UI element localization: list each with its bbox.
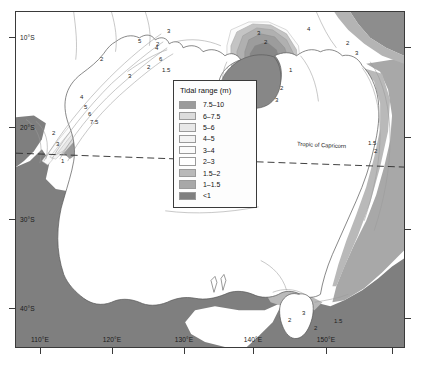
legend-row: 1–1.5 bbox=[179, 179, 251, 190]
legend-label: 1.5–2 bbox=[203, 170, 220, 177]
lon-tick-110e bbox=[40, 347, 41, 354]
contour-label: 3 bbox=[56, 141, 59, 147]
contour-label: 3 bbox=[355, 50, 358, 56]
lon-label-150e: 150°E bbox=[317, 336, 336, 343]
legend-label: 6–7.5 bbox=[203, 113, 220, 120]
lat-tick-right-10s bbox=[404, 47, 411, 48]
contour-label: 7.5 bbox=[90, 119, 98, 125]
legend-row: 6–7.5 bbox=[179, 110, 251, 121]
contour-label: 1.5 bbox=[334, 318, 342, 324]
legend-row: 5–6 bbox=[179, 122, 251, 133]
lon-label-120e: 120°E bbox=[103, 336, 122, 343]
legend-swatch bbox=[179, 192, 196, 200]
legend-label: 2–3 bbox=[203, 158, 215, 165]
legend-row: <1 bbox=[179, 190, 251, 201]
contour-label: 6 bbox=[159, 56, 162, 62]
legend-swatch bbox=[179, 157, 196, 165]
lat-tick-right-30s bbox=[404, 229, 411, 230]
legend-label: 3–4 bbox=[203, 147, 215, 154]
contour-label: 3 bbox=[302, 310, 305, 316]
legend-row: 2–3 bbox=[179, 156, 251, 167]
lat-tick-left-40s bbox=[9, 308, 16, 309]
contour-label: 1.5 bbox=[162, 67, 170, 73]
contour-label: 3 bbox=[167, 28, 170, 34]
legend-label: 4–5 bbox=[203, 135, 215, 142]
legend-swatch bbox=[179, 123, 196, 131]
contour-label: 3 bbox=[275, 97, 278, 103]
lon-tick-150e bbox=[326, 347, 327, 354]
contour-label: 3 bbox=[128, 73, 131, 79]
lat-label-20s: 20°S bbox=[20, 124, 35, 131]
contour-label: 6 bbox=[88, 111, 91, 117]
contour-label: 2 bbox=[52, 130, 55, 136]
lon-tick-edge bbox=[392, 347, 393, 354]
lat-tick-left-20s bbox=[9, 127, 16, 128]
legend-row: 1.5–2 bbox=[179, 167, 251, 178]
legend-swatch bbox=[179, 112, 196, 120]
contour-label: 4 bbox=[307, 26, 310, 32]
legend-swatch bbox=[179, 146, 196, 154]
legend-rows: 7.5–106–7.55–64–53–42–31.5–21–1.5<1 bbox=[179, 99, 251, 202]
legend-swatch bbox=[179, 135, 196, 143]
legend-row: 3–4 bbox=[179, 145, 251, 156]
contour-label: 2 bbox=[280, 85, 283, 91]
contour-label: 2 bbox=[346, 40, 349, 46]
contour-label: 2 bbox=[100, 56, 103, 62]
lon-label-130e: 130°E bbox=[175, 336, 194, 343]
legend-swatch bbox=[179, 169, 196, 177]
lat-label-30s: 30°S bbox=[20, 216, 35, 223]
contour-label: 5 bbox=[138, 38, 141, 44]
contour-label: 2 bbox=[264, 39, 267, 45]
contour-label: 2 bbox=[314, 325, 317, 331]
legend-label: 7.5–10 bbox=[203, 101, 224, 108]
contour-label: 4 bbox=[155, 45, 158, 51]
legend-label: <1 bbox=[203, 192, 211, 199]
map-frame: Tropic of Capricorn 2234564567.5321.5321… bbox=[15, 11, 405, 348]
lat-tick-left-10s bbox=[9, 37, 16, 38]
legend-label: 1–1.5 bbox=[203, 181, 220, 188]
contour-label: 5 bbox=[84, 104, 87, 110]
lon-label-140e: 140°E bbox=[244, 336, 263, 343]
contour-label: 1 bbox=[61, 158, 64, 164]
contour-label: 4 bbox=[80, 94, 83, 100]
lat-label-10s: 10°S bbox=[20, 34, 35, 41]
tidal-range-map-figure: Tropic of Capricorn 2234564567.5321.5321… bbox=[0, 0, 422, 366]
lat-label-40s: 40°S bbox=[20, 305, 35, 312]
legend-swatch bbox=[179, 101, 196, 109]
lat-tick-right-40s bbox=[404, 318, 411, 319]
lat-tick-left-30s bbox=[9, 219, 16, 220]
contour-label: 3 bbox=[257, 30, 260, 36]
contour-label: 1 bbox=[289, 67, 292, 73]
lon-label-110e: 110°E bbox=[31, 336, 49, 343]
legend-swatch bbox=[179, 180, 196, 188]
legend-label: 5–6 bbox=[203, 124, 215, 131]
legend-row: 4–5 bbox=[179, 133, 251, 144]
lat-tick-right-20s bbox=[404, 137, 411, 138]
contour-label: 2 bbox=[288, 317, 291, 323]
lon-tick-120e bbox=[112, 347, 113, 354]
contour-label: 1.5 bbox=[368, 140, 376, 146]
contour-label: 2 bbox=[374, 148, 377, 154]
lon-tick-140e bbox=[253, 347, 254, 354]
contour-label: 2 bbox=[147, 64, 150, 70]
legend-row: 7.5–10 bbox=[179, 99, 251, 110]
lon-tick-130e bbox=[184, 347, 185, 354]
legend-title: Tidal range (m) bbox=[180, 86, 251, 95]
legend-panel: Tidal range (m) 7.5–106–7.55–64–53–42–31… bbox=[173, 80, 257, 208]
